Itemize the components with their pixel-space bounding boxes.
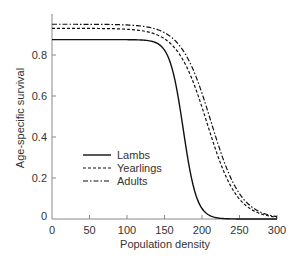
- x-tick-label: 200: [193, 224, 211, 236]
- x-tick-label: 300: [268, 224, 286, 236]
- x-tick-label: 50: [83, 224, 95, 236]
- x-tick-label: 0: [49, 224, 55, 236]
- legend-label-adults: Adults: [117, 175, 148, 187]
- y-tick-label: 0.8: [32, 49, 47, 61]
- curves: [52, 24, 277, 219]
- legend-label-lambs: Lambs: [117, 149, 151, 161]
- y-tick-label: 0: [41, 210, 47, 222]
- axes: 00.20.40.60.8050100150200250300: [32, 14, 286, 236]
- x-tick-label: 150: [155, 224, 173, 236]
- adults-curve: [52, 24, 277, 216]
- x-tick-label: 100: [118, 224, 136, 236]
- legend-label-yearlings: Yearlings: [117, 162, 162, 174]
- legend: LambsYearlingsAdults: [83, 149, 162, 187]
- y-tick-label: 0.6: [32, 90, 47, 102]
- survival-chart: 00.20.40.60.8050100150200250300 LambsYea…: [0, 0, 300, 262]
- y-axis-label: Age-specific survival: [14, 68, 26, 168]
- y-tick-label: 0.4: [32, 131, 47, 143]
- x-tick-label: 250: [230, 224, 248, 236]
- lambs-curve: [52, 40, 277, 219]
- x-axis-label: Population density: [120, 238, 210, 250]
- yearlings-curve: [52, 28, 277, 217]
- y-tick-label: 0.2: [32, 172, 47, 184]
